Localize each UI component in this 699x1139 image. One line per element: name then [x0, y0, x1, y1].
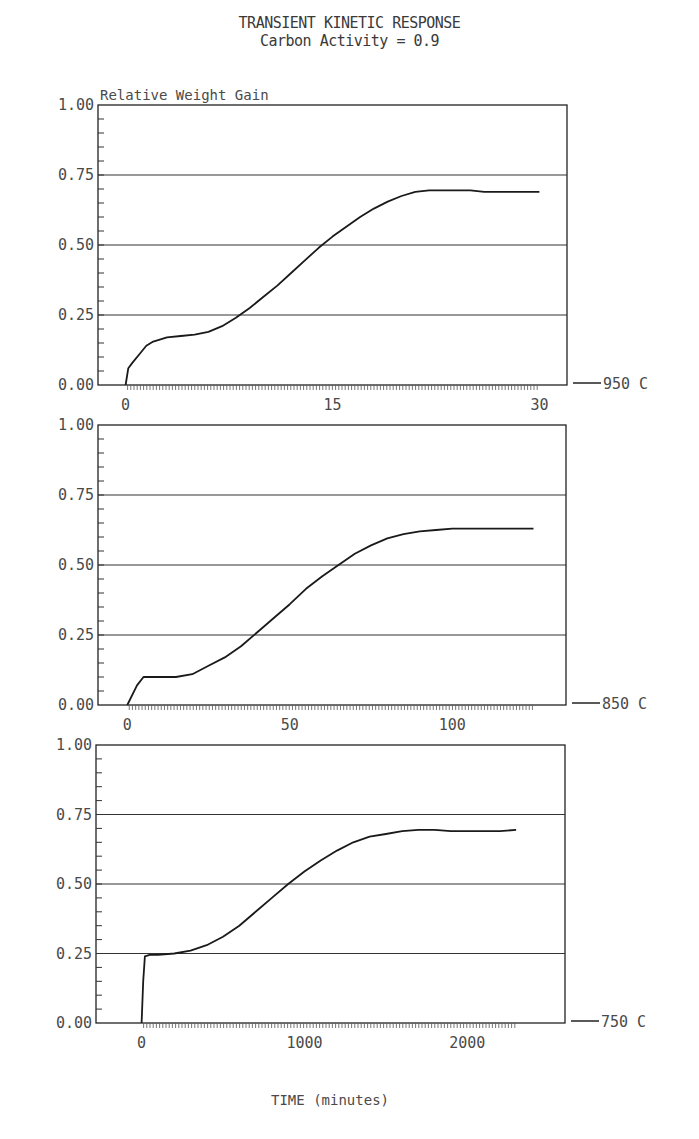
y-tick-label: 0.00: [58, 376, 94, 394]
y-tick-label: 0.25: [58, 306, 94, 324]
x-tick-label: 2000: [449, 1034, 485, 1052]
y-tick-label: 0.50: [58, 236, 94, 254]
x-tick-label: 1000: [286, 1034, 322, 1052]
y-axis-label: Relative Weight Gain: [100, 87, 269, 103]
x-axis-label: TIME (minutes): [271, 1092, 389, 1108]
y-tick-label: 0.75: [58, 166, 94, 184]
data-line: [127, 529, 533, 705]
x-tick-label: 50: [281, 716, 299, 734]
y-tick-label: 0.00: [58, 696, 94, 714]
y-tick-label: 1.00: [58, 96, 94, 114]
panel-850c: 0.000.250.500.751.00050100850 C: [58, 416, 647, 734]
x-tick-label: 0: [137, 1034, 146, 1052]
x-tick-label: 0: [123, 716, 132, 734]
y-tick-label: 1.00: [56, 736, 92, 754]
x-tick-label: 100: [439, 716, 466, 734]
temperature-label: 850 C: [602, 695, 647, 713]
y-tick-label: 0.50: [56, 875, 92, 893]
x-tick-label: 15: [323, 396, 341, 414]
y-tick-label: 0.75: [56, 806, 92, 824]
x-tick-label: 0: [121, 396, 130, 414]
temperature-label: 750 C: [601, 1013, 646, 1031]
y-tick-label: 0.25: [56, 945, 92, 963]
y-tick-label: 0.25: [58, 626, 94, 644]
panel-950c: 0.000.250.500.751.0001530950 C: [58, 96, 648, 414]
y-tick-label: 0.00: [56, 1014, 92, 1032]
chart-panels: 0.000.250.500.751.0001530950 C0.000.250.…: [56, 96, 648, 1052]
figure: Relative Weight Gain 0.000.250.500.751.0…: [0, 0, 699, 1139]
panel-750c: 0.000.250.500.751.00010002000750 C: [56, 736, 646, 1052]
data-line: [142, 830, 516, 1023]
temperature-label: 950 C: [603, 375, 648, 393]
y-tick-label: 0.50: [58, 556, 94, 574]
x-tick-label: 30: [530, 396, 548, 414]
y-tick-label: 0.75: [58, 486, 94, 504]
data-line: [126, 190, 540, 385]
y-tick-label: 1.00: [58, 416, 94, 434]
